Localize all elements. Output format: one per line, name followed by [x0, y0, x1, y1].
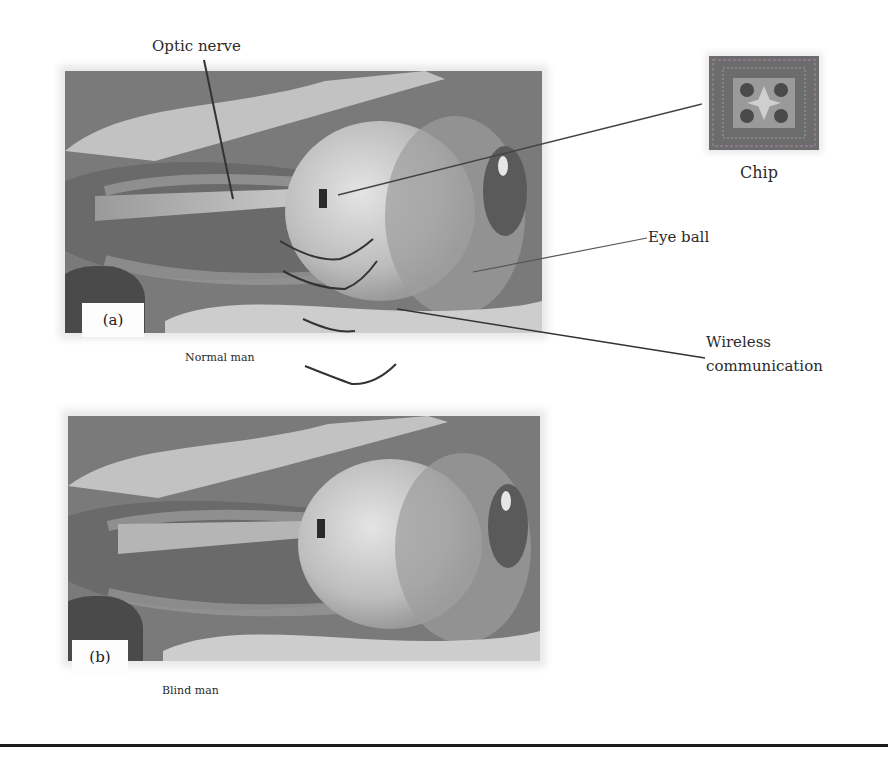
panel-a-eye-illustration — [65, 71, 542, 333]
wireless-communication-label-line2: communication — [706, 357, 823, 375]
panel-b-tag: (b) — [72, 640, 128, 674]
chip-image — [709, 56, 819, 150]
chip-label: Chip — [740, 163, 778, 182]
panel-b-eye-illustration — [68, 416, 540, 661]
optic-nerve-label: Optic nerve — [152, 37, 241, 55]
figure-bottom-rule — [0, 744, 888, 747]
wireless-communication-label-line1: Wireless — [706, 333, 771, 351]
eye-ball-label: Eye ball — [648, 228, 709, 246]
panel-b-caption: Blind man — [162, 684, 219, 697]
panel-a-caption: Normal man — [185, 351, 255, 364]
panel-a-tag: (a) — [82, 303, 144, 337]
